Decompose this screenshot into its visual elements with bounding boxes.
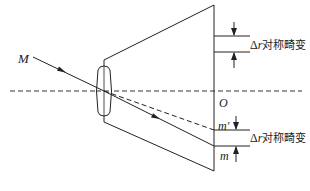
delta-symbol: Δ: [250, 131, 258, 145]
label-m: m: [220, 150, 229, 162]
incident-ray: [33, 57, 104, 91]
label-M: M: [18, 52, 29, 65]
actual-ray-arrow-icon: [151, 113, 160, 119]
label-origin: O: [219, 97, 228, 109]
delta-symbol: Δ: [250, 38, 258, 52]
incident-ray-arrow-icon: [57, 67, 66, 73]
label-m-prime: m′: [218, 120, 229, 132]
label-distortion-top: Δr对称畸变: [250, 39, 306, 51]
label-distortion-bottom: Δr对称畸变: [250, 132, 306, 144]
distortion-text: 对称畸变: [262, 132, 306, 145]
frustum-top-edge: [104, 5, 214, 60]
distortion-diagram: [0, 0, 310, 191]
ideal-ray: [104, 91, 214, 130]
frustum-bottom-edge: [104, 122, 214, 171]
distortion-text: 对称畸变: [262, 39, 306, 52]
